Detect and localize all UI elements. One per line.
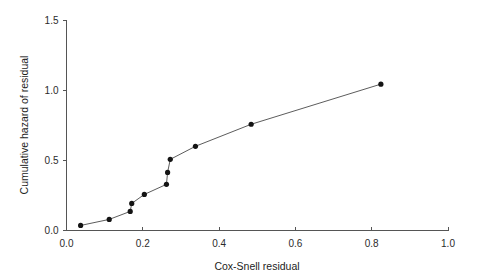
- x-tick-label: 0.0: [60, 238, 74, 249]
- data-point: [165, 170, 170, 175]
- data-point: [249, 122, 254, 127]
- data-point: [378, 82, 383, 87]
- chart-container: 0.00.51.01.5 0.00.20.40.60.81.0 Cox-Snel…: [0, 0, 481, 280]
- data-point: [78, 223, 83, 228]
- x-axis-title: Cox-Snell residual: [214, 260, 299, 272]
- y-tick-label: 0.0: [45, 225, 59, 236]
- data-point: [129, 201, 134, 206]
- cox-snell-residual-plot: 0.00.51.01.5 0.00.20.40.60.81.0 Cox-Snel…: [0, 0, 481, 280]
- x-tick-label: 0.2: [136, 238, 150, 249]
- y-tick-label: 1.0: [45, 85, 59, 96]
- x-tick-label: 0.4: [212, 238, 226, 249]
- y-axis-title: Cumulative hazard of residual: [18, 56, 30, 195]
- x-tick-label: 0.8: [365, 238, 379, 249]
- data-point: [168, 157, 173, 162]
- data-point: [193, 144, 198, 149]
- y-tick-label: 0.5: [45, 155, 59, 166]
- x-tick-label: 0.6: [288, 238, 302, 249]
- data-point: [164, 182, 169, 187]
- data-point: [107, 217, 112, 222]
- x-tick-label: 1.0: [441, 238, 455, 249]
- data-point: [142, 192, 147, 197]
- y-tick-label: 1.5: [45, 15, 59, 26]
- data-point: [128, 209, 133, 214]
